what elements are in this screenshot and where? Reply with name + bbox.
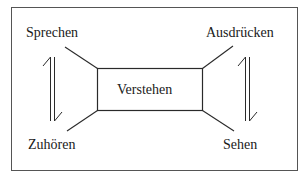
spoke-bottom-left [67,111,98,132]
harpoon-arrows-left-icon [43,57,62,121]
node-zuhoeren: Zuhören [28,138,75,152]
spoke-top-left [65,47,98,69]
node-verstehen: Verstehen [117,83,172,97]
node-sehen: Sehen [223,138,257,152]
harpoon-arrows-right-icon [238,57,257,121]
verstehen-diagram: Sprechen Ausdrücken Verstehen Zuhören Se… [0,0,304,177]
spoke-top-right [203,46,234,69]
node-sprechen: Sprechen [26,26,78,40]
node-ausdruecken: Ausdrücken [206,26,274,40]
spoke-bottom-right [203,111,235,132]
